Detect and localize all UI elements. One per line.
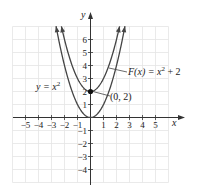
y-tick-label: −3 xyxy=(77,152,87,162)
y-tick-label: −2 xyxy=(77,139,87,149)
y-axis-arrow-icon xyxy=(88,12,93,19)
x-tick-label: 3 xyxy=(127,120,132,130)
x-tick-label: −5 xyxy=(21,120,31,130)
y-tick-label: −1 xyxy=(77,126,87,136)
point-marker xyxy=(88,89,93,94)
x-tick-label: −3 xyxy=(47,120,57,130)
x-tick-label: 1 xyxy=(101,120,106,130)
x-tick-label: 5 xyxy=(153,120,158,130)
x-axis-label: x xyxy=(171,117,177,128)
y-tick-label: 5 xyxy=(83,48,88,58)
x-tick-label: −2 xyxy=(60,120,70,130)
shift-curve-leader-line xyxy=(109,68,127,72)
shift-curve-label: F(x) = x2 + 2 xyxy=(127,65,181,78)
y-tick-label: 1 xyxy=(83,100,88,110)
y-tick-label: −4 xyxy=(77,165,87,175)
graph-figure: −5−4−3−2−112345−4−3−2−1123456 x y y = x2… xyxy=(0,0,201,194)
y-tick-label: 4 xyxy=(83,61,88,71)
x-tick-label: 2 xyxy=(114,120,119,130)
point-label: (0, 2) xyxy=(110,91,132,103)
curve-arrow-icon xyxy=(55,26,60,32)
x-axis-arrow-icon xyxy=(178,115,185,120)
base-curve-label: y = x2 xyxy=(35,80,61,92)
x-tick-label: 4 xyxy=(140,120,145,130)
x-tick-label: −4 xyxy=(34,120,44,130)
y-tick-label: 6 xyxy=(83,35,88,45)
y-axis-label: y xyxy=(80,9,86,20)
y-tick-label: 3 xyxy=(83,74,88,84)
curve-arrow-icon xyxy=(121,26,126,32)
